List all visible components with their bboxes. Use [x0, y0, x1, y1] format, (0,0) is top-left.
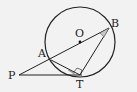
label-p: P	[8, 69, 16, 82]
secant-pb	[19, 28, 109, 75]
label-b: B	[111, 17, 119, 30]
center-point-o	[79, 41, 82, 44]
label-t: T	[76, 78, 84, 91]
angle-marker-b	[100, 28, 109, 37]
geometry-diagram: O B A P T	[0, 0, 137, 92]
label-a: A	[37, 47, 47, 60]
label-o: O	[75, 27, 84, 40]
